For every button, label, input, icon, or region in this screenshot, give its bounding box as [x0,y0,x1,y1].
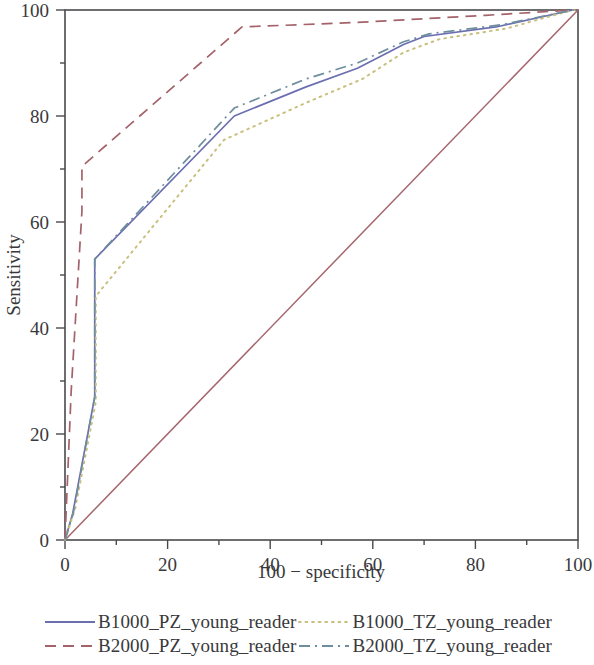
legend-label-0: B1000_PZ_young_reader [98,610,296,634]
y-tick-label: 80 [30,106,49,127]
chart-legend: B1000_PZ_young_reader B1000_TZ_young_rea… [0,610,594,665]
legend-label-1: B1000_TZ_young_reader [352,610,551,634]
legend-label-3: B2000_TZ_young_reader [352,634,551,658]
reference-diagonal-line [65,10,578,540]
roc-series-lines [65,10,578,540]
x-tick-label: 20 [158,554,177,575]
legend-swatch-3 [296,634,352,658]
y-tick-label: 0 [40,530,50,551]
legend-swatch-2 [42,634,98,658]
y-tick-label: 100 [21,0,50,21]
roc-plot: 020406080100020406080100 100 − specifici… [0,0,594,594]
y-axis-title: Sensitivity [3,234,24,316]
legend-line-icon [42,613,98,631]
legend-row: B2000_PZ_young_reader B2000_TZ_young_rea… [42,634,552,658]
x-tick-label: 100 [564,554,593,575]
x-tick-label: 80 [466,554,485,575]
legend-line-icon [296,613,352,631]
legend-row: B1000_PZ_young_reader B1000_TZ_young_rea… [42,610,552,634]
y-tick-label: 40 [30,318,49,339]
legend-table: B1000_PZ_young_reader B1000_TZ_young_rea… [42,610,552,658]
x-axis-title: 100 − specificity [257,561,385,582]
y-tick-label: 20 [30,424,49,445]
x-tick-label: 0 [60,554,70,575]
roc-curve-figure: 020406080100020406080100 100 − specifici… [0,0,594,665]
legend-swatch-0 [42,610,98,634]
legend-line-icon [42,637,98,655]
legend-swatch-1 [296,610,352,634]
legend-line-icon [296,637,352,655]
legend-label-2: B2000_PZ_young_reader [98,634,296,658]
y-tick-label: 60 [30,212,49,233]
